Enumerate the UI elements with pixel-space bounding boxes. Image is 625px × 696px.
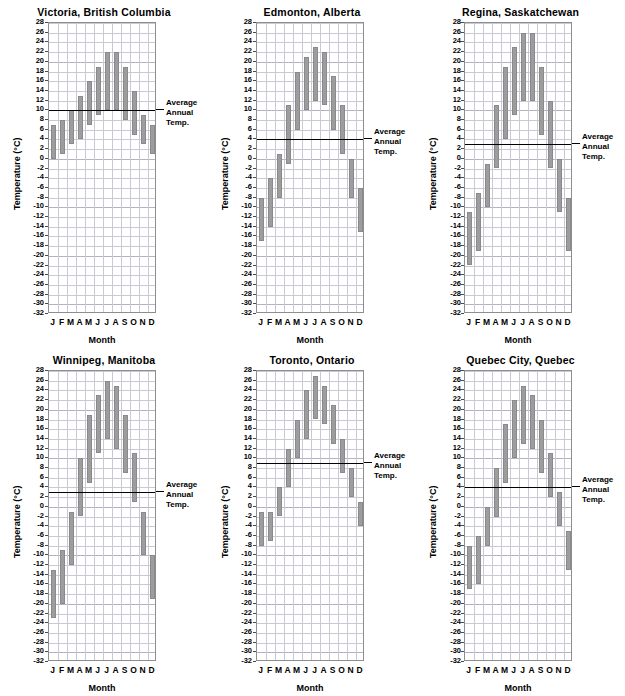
gridline-vertical <box>546 371 547 660</box>
y-axis-tick-label: -32 <box>16 309 44 317</box>
y-axis-tick-label: -2 <box>433 164 461 172</box>
y-axis-tick-mark <box>45 496 48 497</box>
x-axis-tick-label: A <box>491 666 500 675</box>
y-axis-tick-mark <box>253 380 256 381</box>
y-axis-tick-label: -18 <box>16 589 44 597</box>
temperature-range-bar <box>78 96 83 140</box>
temperature-range-bar <box>340 105 345 154</box>
temperature-range-bar <box>566 198 571 251</box>
chart-panel: Edmonton, AlbertaTemperature (°C)MonthAv… <box>208 0 416 348</box>
gridline-vertical <box>58 371 59 660</box>
x-axis-tick-label: A <box>111 666 120 675</box>
y-axis-tick-mark <box>45 148 48 149</box>
y-axis-tick-mark <box>461 593 464 594</box>
temperature-range-bar <box>286 449 291 488</box>
y-axis-tick-mark <box>461 380 464 381</box>
y-axis-tick-mark <box>45 235 48 236</box>
y-axis-tick-label: -18 <box>224 241 252 249</box>
x-axis-tick-label: J <box>509 666 518 675</box>
y-axis-tick-label: 22 <box>16 47 44 55</box>
chart-panel: Winnipeg, ManitobaTemperature (°C)MonthA… <box>0 348 208 696</box>
average-annual-temp-line-extension <box>156 109 164 110</box>
y-axis-tick-mark <box>461 428 464 429</box>
x-axis-title: Month <box>464 683 572 693</box>
y-axis-tick-label: 20 <box>16 57 44 65</box>
y-axis-tick-label: -32 <box>433 309 461 317</box>
y-axis-tick-mark <box>461 100 464 101</box>
x-axis-tick-label: M <box>500 666 509 675</box>
chart-title: Edmonton, Alberta <box>208 6 416 18</box>
x-axis-tick-label: M <box>482 318 491 327</box>
y-axis-tick-mark <box>45 265 48 266</box>
average-annual-temp-line-extension <box>572 486 580 487</box>
y-axis-tick-mark <box>253 593 256 594</box>
chart-panel: Quebec City, QuebecTemperature (°C)Month… <box>416 348 625 696</box>
y-axis-tick-mark <box>461 399 464 400</box>
y-axis-tick-mark <box>461 187 464 188</box>
y-axis-tick-mark <box>253 303 256 304</box>
y-axis-tick-label: 26 <box>433 376 461 384</box>
y-axis-tick-mark <box>253 138 256 139</box>
average-annual-temp-label: AverageAnnualTemp. <box>582 475 613 505</box>
x-axis-tick-label: S <box>120 318 129 327</box>
y-axis-tick-mark <box>45 61 48 62</box>
y-axis-tick-mark <box>45 284 48 285</box>
y-axis-tick-mark <box>45 389 48 390</box>
y-axis-tick-mark <box>461 177 464 178</box>
y-axis-tick-mark <box>461 226 464 227</box>
x-axis-tick-label: A <box>111 318 120 327</box>
y-axis-tick-label: 12 <box>433 96 461 104</box>
y-axis-tick-mark <box>45 564 48 565</box>
y-axis-tick-label: -6 <box>433 531 461 539</box>
y-axis-tick-label: 2 <box>16 144 44 152</box>
x-axis-title: Month <box>256 335 364 345</box>
average-annual-temp-label-line: Temp. <box>166 118 197 128</box>
y-axis-tick-mark <box>253 545 256 546</box>
y-axis-tick-mark <box>45 206 48 207</box>
gridline-vertical <box>564 371 565 660</box>
temperature-range-bar <box>277 487 282 516</box>
y-axis-tick-label: 8 <box>16 463 44 471</box>
y-axis-tick-mark <box>461 119 464 120</box>
y-axis-tick-label: -22 <box>16 261 44 269</box>
average-annual-temp-label-line: Annual <box>582 142 613 152</box>
y-axis-tick-label: 16 <box>224 424 252 432</box>
temperature-range-bar <box>96 67 101 116</box>
y-axis-tick-mark <box>461 255 464 256</box>
y-axis-tick-mark <box>253 61 256 62</box>
y-axis-tick-mark <box>253 109 256 110</box>
x-axis-tick-label: O <box>545 666 554 675</box>
y-axis-tick-mark <box>253 370 256 371</box>
x-axis-tick-label: F <box>57 318 66 327</box>
y-axis-tick-label: -24 <box>224 618 252 626</box>
y-axis-tick-label: -32 <box>433 657 461 665</box>
gridline-vertical <box>130 23 131 312</box>
y-axis-tick-mark <box>253 71 256 72</box>
y-axis-tick-mark <box>45 632 48 633</box>
y-axis-tick-mark <box>45 642 48 643</box>
temperature-range-bar <box>141 512 146 556</box>
y-axis-tick-mark <box>461 148 464 149</box>
y-axis-tick-label: -2 <box>16 164 44 172</box>
y-axis-tick-label: -4 <box>224 173 252 181</box>
y-axis-tick-label: -6 <box>224 531 252 539</box>
x-axis-tick-label: J <box>518 666 527 675</box>
y-axis-tick-mark <box>253 187 256 188</box>
y-axis-tick-label: 4 <box>224 482 252 490</box>
y-axis-tick-label: 26 <box>16 376 44 384</box>
average-annual-temp-label-line: Annual <box>374 137 405 147</box>
temperature-range-bar <box>467 546 472 590</box>
y-axis-tick-label: -28 <box>16 638 44 646</box>
temperature-range-bar <box>259 512 264 546</box>
temperature-range-bar <box>485 507 490 546</box>
y-axis-tick-label: -22 <box>16 609 44 617</box>
temperature-range-bar <box>51 125 56 159</box>
x-axis-tick-label: N <box>346 666 355 675</box>
y-axis-tick-mark <box>45 41 48 42</box>
y-axis-tick-mark <box>461 109 464 110</box>
y-axis-tick-mark <box>253 516 256 517</box>
y-axis-tick-mark <box>461 661 464 662</box>
y-axis-tick-mark <box>45 51 48 52</box>
temperature-range-bar <box>521 386 526 444</box>
y-axis-tick-mark <box>461 642 464 643</box>
